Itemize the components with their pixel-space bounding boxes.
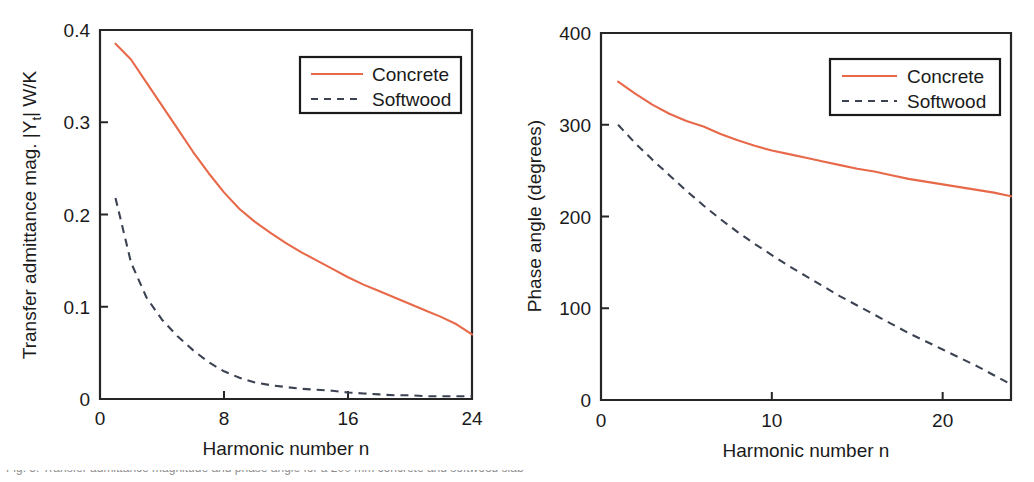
- y-tick-label-0.2: 0.2: [64, 205, 90, 226]
- x-axis-ticks-left: [224, 391, 348, 399]
- x-axis-title-left: Harmonic number n: [203, 438, 370, 459]
- legend-label-softwood-left: Softwood: [372, 89, 451, 110]
- series-line-softwood-left: [116, 198, 473, 396]
- y-axis-tick-labels-right: 0100200300400: [559, 23, 591, 411]
- y-axis-title-text-right: Phase angle (degrees): [524, 120, 545, 312]
- legend-label-concrete-right: Concrete: [907, 66, 984, 87]
- transfer-admittance-plot: 00.10.20.30.4 081624 Transfer admittance…: [0, 0, 517, 482]
- svg-text:Transfer admittance mag. |Yt|: Transfer admittance mag. |Yt| W/K: [19, 70, 44, 359]
- y-tick-label-100: 100: [559, 298, 591, 319]
- y-tick-label-0: 0: [79, 389, 90, 410]
- x-tick-label-16: 16: [337, 408, 358, 429]
- x-axis-tick-labels-left: 081624: [95, 408, 483, 429]
- legend-right: Concrete Softwood: [830, 59, 1000, 115]
- chart-panel-phase-angle: 0100200300400 01020 Phase angle (degrees…: [517, 0, 1034, 482]
- y-axis-title-left: Transfer admittance mag. |Yt| W/K: [19, 70, 44, 359]
- figure-caption-clipped: Fig. 5. Transfer admittance magnitude an…: [0, 470, 1034, 482]
- y-axis-title-tail-left: | W/K: [19, 70, 40, 116]
- legend-label-softwood-right: Softwood: [907, 91, 986, 112]
- x-tick-label-0: 0: [596, 410, 607, 431]
- chart-panel-transfer-admittance-magnitude: 00.10.20.30.4 081624 Transfer admittance…: [0, 0, 517, 482]
- legend-label-concrete-left: Concrete: [372, 64, 449, 85]
- y-tick-label-0.3: 0.3: [64, 112, 90, 133]
- legend-left: Concrete Softwood: [300, 57, 461, 113]
- y-tick-label-0.1: 0.1: [64, 297, 90, 318]
- y-axis-title-main-left: Transfer admittance mag. |Y: [19, 120, 40, 359]
- figure-two-panel-chart: 00.10.20.30.4 081624 Transfer admittance…: [0, 0, 1034, 482]
- figure-caption-text: Fig. 5. Transfer admittance magnitude an…: [6, 470, 524, 475]
- y-tick-label-300: 300: [559, 115, 591, 136]
- y-tick-label-200: 200: [559, 207, 591, 228]
- y-axis-title-right: Phase angle (degrees): [524, 120, 545, 312]
- y-tick-label-0: 0: [580, 390, 591, 411]
- x-tick-label-0: 0: [95, 408, 106, 429]
- y-axis-ticks-left: [100, 122, 108, 307]
- x-tick-label-10: 10: [761, 410, 782, 431]
- x-tick-label-8: 8: [219, 408, 230, 429]
- y-tick-label-400: 400: [559, 23, 591, 44]
- y-tick-label-0.4: 0.4: [64, 20, 91, 41]
- x-axis-tick-labels-right: 01020: [596, 410, 954, 431]
- series-line-softwood-right: [618, 125, 1011, 385]
- x-tick-label-24: 24: [461, 408, 483, 429]
- x-axis-title-right: Harmonic number n: [723, 440, 890, 461]
- x-axis-ticks-right: [772, 392, 943, 400]
- y-axis-tick-labels-left: 00.10.20.30.4: [64, 20, 91, 410]
- y-axis-ticks-right: [601, 125, 609, 309]
- phase-angle-plot: 0100200300400 01020 Phase angle (degrees…: [517, 0, 1034, 482]
- x-tick-label-20: 20: [932, 410, 953, 431]
